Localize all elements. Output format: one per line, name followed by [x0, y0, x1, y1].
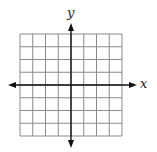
- x-axis-left-arrow-icon: [8, 82, 16, 88]
- coordinate-plane: [0, 0, 157, 152]
- x-axis-right-arrow-icon: [129, 82, 137, 88]
- y-axis-label: y: [67, 6, 74, 19]
- x-axis-label: x: [140, 77, 147, 90]
- y-axis-down-arrow-icon: [68, 140, 74, 148]
- y-axis-up-arrow-icon: [68, 23, 74, 31]
- axes: [8, 23, 137, 148]
